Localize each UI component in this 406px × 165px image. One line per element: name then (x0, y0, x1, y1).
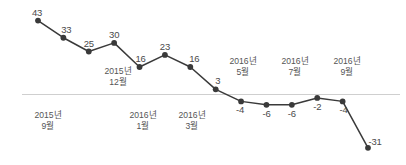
axis-tick-month: 3월 (178, 121, 205, 132)
axis-tick-year: 2016년 (229, 56, 256, 67)
data-point (137, 64, 143, 70)
axis-tick-year: 2016년 (178, 110, 205, 121)
axis-tick-label: 2016년5월 (229, 56, 256, 79)
axis-tick-label: 2015년9월 (34, 110, 61, 133)
data-point-label: 43 (32, 8, 42, 18)
axis-tick-year: 2016년 (333, 56, 360, 67)
axis-tick-month: 12월 (104, 77, 131, 88)
axis-tick-month: 5월 (229, 67, 256, 78)
axis-tick-label: 2016년9월 (333, 56, 360, 79)
line-chart: 433325301623163-4-6-6-2-4-31 2015년9월2015… (0, 0, 406, 165)
data-point-label: -4 (236, 105, 244, 115)
data-point-label: -31 (368, 137, 381, 147)
data-point (86, 49, 92, 55)
data-point-label: 33 (61, 25, 71, 35)
data-point-label: 3 (215, 76, 220, 86)
axis-tick-month: 9월 (333, 67, 360, 78)
data-point (213, 86, 219, 92)
axis-tick-label: 2016년1월 (129, 110, 156, 133)
data-point-label: -2 (313, 102, 321, 112)
data-point-label: 16 (189, 54, 199, 64)
data-point (187, 64, 193, 70)
axis-tick-month: 9월 (34, 121, 61, 132)
axis-tick-month: 1월 (129, 121, 156, 132)
axis-tick-year: 2016년 (129, 110, 156, 121)
axis-tick-year: 2015년 (104, 66, 131, 77)
data-point (35, 18, 41, 24)
axis-tick-label: 2015년12월 (104, 66, 131, 89)
axis-tick-label: 2016년3월 (178, 110, 205, 133)
data-point-label: -6 (288, 109, 296, 119)
axis-tick-month: 7월 (281, 67, 308, 78)
data-point-label: 30 (109, 30, 119, 40)
data-point-label: 25 (84, 39, 94, 49)
data-point (60, 35, 66, 41)
axis-tick-year: 2015년 (34, 110, 61, 121)
axis-tick-year: 2016년 (281, 56, 308, 67)
axis-tick-label: 2016년7월 (281, 56, 308, 79)
data-point (111, 40, 117, 46)
data-point-label: -4 (340, 105, 348, 115)
data-point-label: 23 (160, 42, 170, 52)
data-point (162, 52, 168, 58)
data-point-label: 16 (135, 54, 145, 64)
data-point-label: -6 (262, 109, 270, 119)
